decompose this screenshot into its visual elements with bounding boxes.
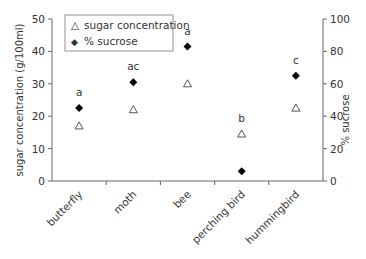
sucrose-point — [75, 104, 83, 112]
right-axis-title: % sucrose — [340, 94, 351, 145]
x-category-label: bee — [171, 188, 193, 210]
sugar-concentration-point — [75, 122, 83, 129]
significance-label: ac — [127, 60, 139, 72]
marks — [75, 43, 300, 176]
sugar-concentration-point — [292, 104, 300, 111]
right-tick-label: 0 — [330, 175, 337, 187]
left-tick-label: 50 — [32, 13, 45, 25]
significance-label: a — [76, 86, 82, 98]
sucrose-point — [238, 167, 246, 175]
sucrose-point — [129, 78, 137, 86]
left-tick-label: 30 — [32, 78, 45, 90]
left-tick-label: 20 — [32, 110, 45, 122]
left-tick-label: 10 — [32, 143, 45, 155]
sugar-concentration-point — [238, 130, 246, 137]
labels: butterflymothbeeperching birdhummingbird… — [44, 25, 301, 247]
sucrose-point — [184, 43, 192, 51]
right-tick-label: 100 — [330, 13, 350, 25]
right-tick-label: 60 — [330, 78, 343, 90]
sucrose-point — [292, 72, 300, 80]
legend: △ sugar concentration ◆ % sucrose — [65, 15, 190, 51]
left-tick-label: 0 — [38, 175, 45, 187]
legend-label-percent-sucrose: % sucrose — [84, 35, 138, 47]
legend-symbol-triangle: △ — [71, 19, 80, 31]
significance-label: c — [293, 54, 299, 66]
right-tick-label: 80 — [330, 45, 343, 57]
legend-symbol-diamond: ◆ — [71, 37, 78, 47]
x-category-label: moth — [111, 188, 139, 216]
sugar-concentration-point — [129, 106, 137, 113]
x-category-label: butterfly — [44, 188, 84, 228]
left-axis-title: sugar concentration (g/100ml) — [14, 23, 25, 176]
sugar-concentration-point — [184, 80, 192, 87]
chart: 01020304050020406080100 butterflymothbee… — [0, 0, 366, 259]
x-category-label: hummingbird — [243, 188, 301, 246]
left-tick-label: 40 — [32, 45, 45, 57]
x-category-label: perching bird — [189, 188, 247, 246]
legend-label-sugar-concentration: sugar concentration — [84, 19, 190, 31]
significance-label: b — [238, 112, 245, 124]
